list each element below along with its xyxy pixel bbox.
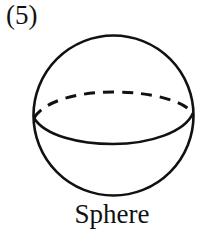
sphere-outline bbox=[34, 36, 194, 196]
back-equator-dashed bbox=[34, 92, 193, 118]
front-equator-solid bbox=[34, 113, 193, 144]
figure-caption: Sphere bbox=[0, 199, 210, 230]
